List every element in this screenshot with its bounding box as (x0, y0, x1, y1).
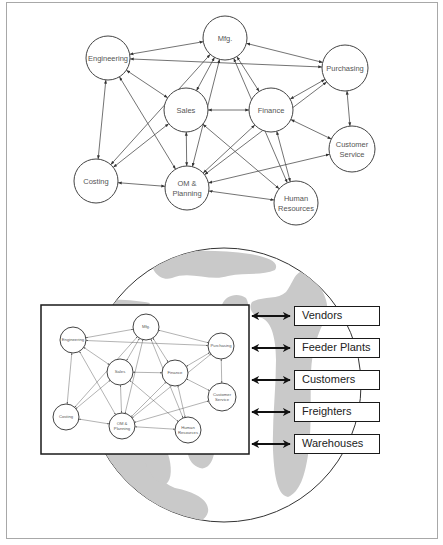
top-edge-sales-human_resources (203, 124, 279, 189)
top-edge-purchasing-customer_service (347, 91, 350, 126)
top-edge-costing-om_planning (118, 183, 165, 187)
top-diagram-edges (98, 42, 350, 200)
top-edge-engineering-om_planning (119, 77, 175, 169)
node-label: Resources (278, 204, 314, 213)
top-edge-finance-customer_service (291, 120, 331, 139)
partner-box-warehouses: Warehouses (294, 434, 380, 454)
top-edge-om_planning-human_resources (209, 191, 274, 200)
top-node-engineering: Engineering (86, 36, 130, 80)
inner-node-engineering: Engineering (60, 327, 86, 353)
partner-label: Customers (302, 373, 355, 385)
inner-node-om-planning: OM &Planning (109, 413, 135, 439)
partner-label: Vendors (302, 309, 342, 321)
partner-label: Freighters (302, 405, 352, 417)
partner-box-freighters: Freighters (294, 402, 380, 422)
top-edge-engineering-costing (98, 80, 106, 159)
node-label: Customer (213, 392, 232, 397)
node-label: Sales (177, 106, 196, 115)
node-label: Sales (115, 369, 125, 374)
node-label: OM & (117, 421, 128, 426)
top-node-finance: Finance (249, 88, 293, 132)
top-edge-engineering-mfg (130, 42, 204, 55)
node-label: Engineering (88, 54, 128, 63)
top-edge-engineering-sales (126, 70, 167, 98)
partner-label: Feeder Plants (302, 341, 370, 353)
node-label: Mfg. (218, 34, 233, 43)
top-edge-mfg-purchasing (246, 43, 322, 62)
node-label: Service (339, 150, 364, 159)
inner-node-human-resources: HumanResources (175, 417, 201, 443)
node-label: Costing (83, 177, 108, 186)
top-diagram-nodes: EngineeringMfg.PurchasingSalesFinanceCus… (74, 16, 375, 225)
node-label: Finance (168, 370, 184, 375)
node-label: Planning (172, 189, 201, 198)
inner-node-finance: Finance (162, 360, 188, 386)
partner-box-vendors: Vendors (294, 306, 380, 326)
top-edge-sales-costing (113, 124, 168, 168)
node-label: Purchasing (326, 64, 364, 73)
department-network-diagram: EngineeringMfg.PurchasingSalesFinanceCus… (0, 0, 443, 545)
inner-node-mfg: Mfg. (133, 314, 159, 340)
top-edge-customer_service-om_planning (208, 154, 329, 183)
node-label: Customer (336, 140, 369, 149)
top-node-mfg: Mfg. (203, 16, 247, 60)
node-label: Service (215, 397, 230, 402)
partner-box-feeder-plants: Feeder Plants (294, 338, 380, 358)
top-node-human-resources: HumanResources (274, 181, 318, 225)
partner-label: Warehouses (302, 437, 363, 449)
top-node-om-planning: OM &Planning (165, 166, 209, 210)
top-node-costing: Costing (74, 159, 118, 203)
node-label: Planning (114, 426, 131, 431)
node-label: Human (181, 425, 195, 430)
node-label: Purchasing (211, 343, 233, 348)
node-label: Finance (258, 106, 285, 115)
node-label: OM & (177, 179, 196, 188)
top-edge-finance-om_planning (203, 125, 255, 173)
top-node-purchasing: Purchasing (322, 45, 368, 91)
inner-node-purchasing: Purchasing (208, 333, 234, 359)
top-node-customer-service: CustomerService (329, 126, 375, 172)
inner-node-costing: Costing (53, 404, 79, 430)
inner-node-customer-service: CustomerService (208, 383, 236, 411)
node-label: Resources (178, 430, 198, 435)
partner-box-customers: Customers (294, 370, 380, 390)
node-label: Costing (59, 414, 74, 419)
node-label: Engineering (62, 337, 85, 342)
node-label: Human (284, 194, 308, 203)
inner-node-sales: Sales (107, 359, 133, 385)
node-label: Mfg. (142, 324, 150, 329)
top-node-sales: Sales (164, 88, 208, 132)
